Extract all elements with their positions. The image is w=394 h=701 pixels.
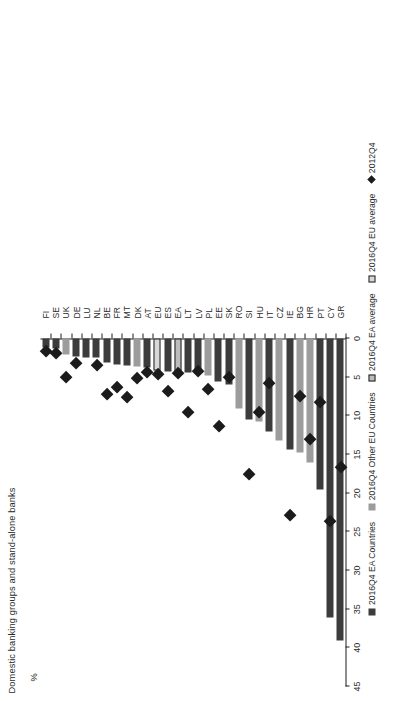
category-label-bg: BG xyxy=(294,306,304,318)
legend-swatch-icon xyxy=(368,374,375,381)
category-label-es: ES xyxy=(162,307,172,318)
value-tick xyxy=(345,376,349,377)
category-label-ee: EE xyxy=(213,307,223,318)
bar-ie xyxy=(286,338,293,449)
marker-ee xyxy=(212,420,224,432)
category-label-eu: EU xyxy=(152,306,162,318)
category-label-hu: HU xyxy=(254,306,264,318)
category-tick xyxy=(50,334,51,339)
category-label-nl: NL xyxy=(91,307,101,318)
marker-fi xyxy=(39,344,51,356)
category-tick xyxy=(304,334,305,339)
plot-area: 051015202530354045 GRCYPTHRBGIECZITHUSIR… xyxy=(40,338,345,686)
marker-nl xyxy=(90,359,102,371)
legend-item: 2012Q4 xyxy=(366,142,376,182)
category-tick xyxy=(182,334,183,339)
category-label-gr: GR xyxy=(335,305,345,318)
category-label-fr: FR xyxy=(111,307,121,318)
value-tick-label: 30 xyxy=(351,565,361,575)
category-tick xyxy=(162,334,163,339)
category-tick xyxy=(132,334,133,339)
bar-de xyxy=(72,338,79,356)
category-label-ea: EA xyxy=(172,307,182,318)
value-tick-label: 25 xyxy=(351,526,361,536)
value-tick-label: 15 xyxy=(351,449,361,459)
category-label-at: AT xyxy=(142,308,152,318)
category-tick xyxy=(142,334,143,339)
marker-at xyxy=(141,366,153,378)
category-label-cy: CY xyxy=(325,306,335,318)
category-tick xyxy=(71,334,72,339)
value-tick xyxy=(345,530,349,531)
legend-label: 2012Q4 xyxy=(366,142,376,173)
legend-label: 2016Q4 EA average xyxy=(366,293,376,370)
category-tick xyxy=(325,334,326,339)
bar-si xyxy=(245,338,252,419)
legend-label: 2016Q4 EA Countries xyxy=(366,521,376,604)
category-tick xyxy=(203,334,204,339)
category-tick xyxy=(152,334,153,339)
rotated-figure: Domestic banking groups and stand-alone … xyxy=(0,0,394,701)
category-tick xyxy=(345,334,346,339)
category-tick xyxy=(172,334,173,339)
category-tick xyxy=(233,334,234,339)
marker-lt xyxy=(181,405,193,417)
category-label-lv: LV xyxy=(193,308,203,318)
legend-label: 2016Q4 EU average xyxy=(366,193,376,271)
marker-uk xyxy=(59,371,71,383)
bar-cz xyxy=(275,338,282,440)
category-label-cz: CZ xyxy=(274,307,284,318)
category-label-be: BE xyxy=(101,307,111,318)
bar-nl xyxy=(92,338,99,357)
value-tick-label: 20 xyxy=(351,488,361,498)
category-label-lu: LU xyxy=(81,307,91,318)
marker-si xyxy=(242,467,254,479)
bar-be xyxy=(103,338,110,362)
value-tick xyxy=(345,685,349,686)
category-tick xyxy=(111,334,112,339)
marker-gr xyxy=(334,461,346,473)
marker-pt xyxy=(314,396,326,408)
value-tick xyxy=(345,453,349,454)
category-label-uk: UK xyxy=(60,306,70,318)
y-axis-unit-label: % xyxy=(28,673,38,681)
legend-label: 2016Q4 Other EU Countries xyxy=(366,392,376,500)
category-label-mt: MT xyxy=(121,306,131,318)
category-tick xyxy=(284,334,285,339)
legend-swatch-icon xyxy=(368,275,375,282)
marker-be xyxy=(100,388,112,400)
category-tick xyxy=(264,334,265,339)
marker-it xyxy=(263,377,275,389)
marker-se xyxy=(49,347,61,359)
bar-pl xyxy=(204,338,211,375)
category-tick xyxy=(335,334,336,339)
category-label-pt: PT xyxy=(315,307,325,318)
category-tick xyxy=(294,334,295,339)
bar-uk xyxy=(62,338,69,354)
category-tick xyxy=(274,334,275,339)
bar-cy xyxy=(326,338,333,617)
bar-es xyxy=(164,338,171,371)
category-tick xyxy=(213,334,214,339)
category-tick xyxy=(101,334,102,339)
category-tick xyxy=(81,334,82,339)
value-tick xyxy=(345,492,349,493)
marker-ea xyxy=(171,367,183,379)
marker-mt xyxy=(120,391,132,403)
bar-fr xyxy=(113,338,120,364)
value-tick-label: 5 xyxy=(351,374,361,379)
category-tick xyxy=(315,334,316,339)
bar-mt xyxy=(123,338,130,365)
category-label-dk: DK xyxy=(132,306,142,318)
chart-canvas: Domestic banking groups and stand-alone … xyxy=(0,0,394,701)
value-tick-label: 10 xyxy=(351,410,361,420)
marker-ie xyxy=(283,508,295,520)
category-label-ro: RO xyxy=(233,305,243,318)
value-tick-label: 0 xyxy=(351,335,361,340)
category-label-fi: FI xyxy=(40,310,50,318)
bar-gr xyxy=(336,338,343,640)
bar-dk xyxy=(133,338,140,366)
bar-eu xyxy=(153,338,160,370)
category-label-pl: PL xyxy=(203,307,213,318)
value-tick-label: 35 xyxy=(351,604,361,614)
